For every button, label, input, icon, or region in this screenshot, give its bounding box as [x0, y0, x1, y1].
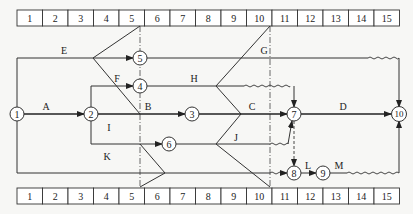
timescale-cell: 11 [272, 188, 298, 204]
label-C: C [249, 101, 256, 112]
timescale-cell: 5 [119, 10, 145, 26]
timescale-label: 11 [280, 191, 290, 202]
timescale-label: 15 [382, 191, 392, 202]
node-8: 8 [287, 166, 301, 180]
timescale-label: 4 [104, 191, 109, 202]
label-M: M [335, 160, 344, 171]
label-J: J [234, 132, 238, 143]
timescale-cell: 9 [221, 188, 247, 204]
node-2-label: 2 [89, 109, 94, 120]
label-A: A [42, 101, 50, 112]
timescale-label: 3 [78, 191, 83, 202]
diagram-svg: 123456789101112131415 123456789101112131… [0, 0, 413, 214]
timescale-label: 10 [254, 191, 264, 202]
timescale-cell: 4 [94, 10, 120, 26]
node-5-label: 5 [138, 53, 143, 64]
timescale-cell: 15 [374, 10, 400, 26]
activity-D: D [301, 101, 391, 114]
label-F: F [114, 73, 120, 84]
timescale-cell: 10 [247, 10, 273, 26]
label-D: D [339, 101, 346, 112]
activity-C: C [199, 101, 287, 114]
activity-K: K [17, 121, 287, 174]
timescale-label: 1 [27, 13, 32, 24]
timescale-label: 7 [180, 13, 185, 24]
timescale-label: 5 [129, 191, 134, 202]
node-9: 9 [316, 166, 330, 180]
timescale-label: 13 [331, 191, 341, 202]
activity-M: M [330, 121, 399, 174]
check-line-5 [93, 26, 165, 187]
timescale-cell: 2 [43, 188, 69, 204]
top-timescale: 123456789101112131415 [17, 10, 400, 26]
timescale-cell: 13 [323, 10, 349, 26]
label-G: G [260, 45, 267, 56]
timescale-label: 1 [27, 191, 32, 202]
node-10-label: 10 [395, 109, 405, 119]
timescale-cell: 9 [221, 10, 247, 26]
activity-A: A [24, 101, 84, 114]
node-5: 5 [133, 51, 147, 65]
timescale-cell: 3 [68, 188, 94, 204]
timescale-cell: 4 [94, 188, 120, 204]
timescale-cell: 5 [119, 188, 145, 204]
node-9-label: 9 [321, 168, 326, 179]
timescale-label: 7 [180, 191, 185, 202]
timescale-cell: 6 [145, 188, 171, 204]
timescale-label: 8 [206, 13, 211, 24]
timescale-label: 5 [129, 13, 134, 24]
node-3-label: 3 [190, 109, 195, 120]
node-1: 1 [10, 107, 24, 121]
timescale-label: 9 [231, 191, 236, 202]
timescale-cell: 13 [323, 188, 349, 204]
timescale-label: 12 [305, 191, 315, 202]
timescale-cell: 7 [170, 10, 196, 26]
timescale-label: 2 [53, 13, 58, 24]
node-10: 10 [392, 107, 407, 122]
timescale-cell: 8 [196, 188, 222, 204]
timescale-cell: 8 [196, 10, 222, 26]
activity-B: B [98, 101, 185, 114]
timescale-cell: 6 [145, 10, 171, 26]
timescale-cell: 2 [43, 10, 69, 26]
node-3: 3 [185, 107, 199, 121]
activity-F: F [91, 73, 133, 107]
timescale-cell: 14 [349, 10, 375, 26]
timescale-cell: 12 [298, 10, 324, 26]
label-B: B [145, 101, 152, 112]
timescale-cell: 11 [272, 10, 298, 26]
timescale-cell: 7 [170, 188, 196, 204]
activity-L: L [301, 160, 316, 173]
timescale-label: 13 [331, 13, 341, 24]
timescale-label: 4 [104, 13, 109, 24]
label-I: I [107, 122, 110, 133]
timescale-label: 15 [382, 13, 392, 24]
timescale-label: 14 [356, 13, 366, 24]
activity-I: I [91, 121, 162, 144]
timescale-label: 2 [53, 191, 58, 202]
node-4-label: 4 [138, 81, 143, 92]
activity-H: H [147, 73, 294, 107]
timescale-label: 8 [206, 191, 211, 202]
timescale-cell: 14 [349, 188, 375, 204]
node-6-label: 6 [167, 139, 172, 150]
timescale-cell: 1 [17, 10, 43, 26]
timescale-label: 10 [254, 13, 264, 24]
timescale-cell: 15 [374, 188, 400, 204]
timescale-label: 11 [280, 13, 290, 24]
activity-J: J [176, 121, 292, 145]
timescale-label: 14 [356, 191, 366, 202]
node-7: 7 [287, 107, 301, 121]
label-L: L [305, 160, 311, 171]
timescale-cell: 1 [17, 188, 43, 204]
timescale-label: 6 [155, 13, 160, 24]
node-2: 2 [84, 107, 98, 121]
label-E: E [61, 45, 67, 56]
node-7-label: 7 [292, 109, 297, 120]
node-6: 6 [162, 137, 176, 151]
activity-G: G [147, 45, 399, 107]
timescale-cell: 12 [298, 188, 324, 204]
label-H: H [190, 73, 197, 84]
label-K: K [103, 151, 111, 162]
node-4: 4 [133, 79, 147, 93]
